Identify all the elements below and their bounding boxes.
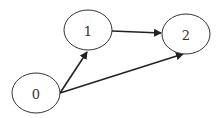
node-2: 2 — [162, 14, 210, 54]
edge-1-to-2 — [112, 31, 161, 33]
edge-0-to-1 — [60, 52, 87, 93]
directed-graph: 0 1 2 — [0, 0, 224, 118]
node-1-label: 1 — [84, 24, 92, 39]
node-1: 1 — [64, 10, 112, 50]
node-0-label: 0 — [32, 87, 40, 102]
node-0: 0 — [12, 73, 60, 113]
node-2-label: 2 — [182, 28, 190, 43]
edge-0-to-2 — [60, 54, 183, 93]
